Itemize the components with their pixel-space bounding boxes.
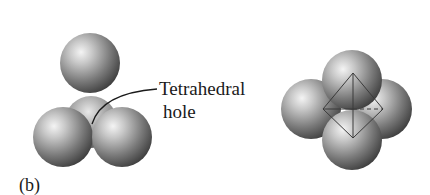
- annotation-hole: hole: [163, 102, 196, 121]
- panel-label: (b): [19, 176, 40, 194]
- tetrahedral-hole-figure: Tetrahedral hole (b): [0, 0, 430, 195]
- left-sphere-diagram: [33, 33, 157, 167]
- sphere-front-left: [33, 107, 93, 167]
- annotation-tetrahedral: Tetrahedral: [159, 79, 245, 98]
- sphere-top: [322, 50, 382, 110]
- sphere-front-right: [92, 107, 152, 167]
- right-sphere-diagram: [281, 50, 412, 170]
- sphere-top: [60, 33, 120, 93]
